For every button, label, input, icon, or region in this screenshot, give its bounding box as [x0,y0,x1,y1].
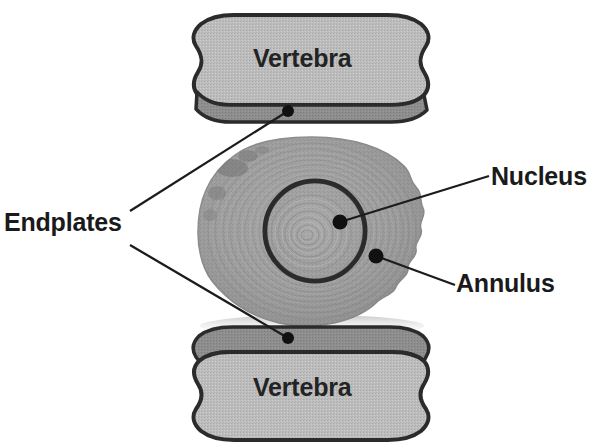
label-vertebra-bottom: Vertebra [253,373,351,402]
label-annulus: Annulus [456,269,555,298]
marker-annulus [369,249,384,264]
nucleus-pulposus [265,181,365,281]
intervertebral-disc-diagram: Vertebra Vertebra Endplates Nucleus Annu… [0,0,590,446]
label-nucleus: Nucleus [491,162,587,191]
marker-nucleus [333,215,348,230]
label-endplates: Endplates [4,208,122,237]
label-vertebra-top: Vertebra [253,44,351,73]
marker-endplate-top [282,105,294,117]
intervertebral-disc [198,137,424,326]
marker-endplate-bottom [282,332,294,344]
